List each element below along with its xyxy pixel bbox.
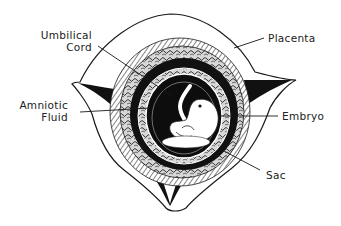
label-umbilical-cord-line1: Umbilical bbox=[32, 30, 92, 41]
label-embryo: Embryo bbox=[282, 111, 324, 122]
label-sac: Sac bbox=[266, 170, 286, 181]
label-placenta: Placenta bbox=[268, 33, 316, 44]
leader-placenta bbox=[234, 38, 264, 48]
label-amniotic-fluid-line1: Amniotic bbox=[8, 100, 68, 111]
label-umbilical-cord-line2: Cord bbox=[32, 42, 92, 53]
label-amniotic-fluid-line2: Fluid bbox=[8, 112, 68, 123]
